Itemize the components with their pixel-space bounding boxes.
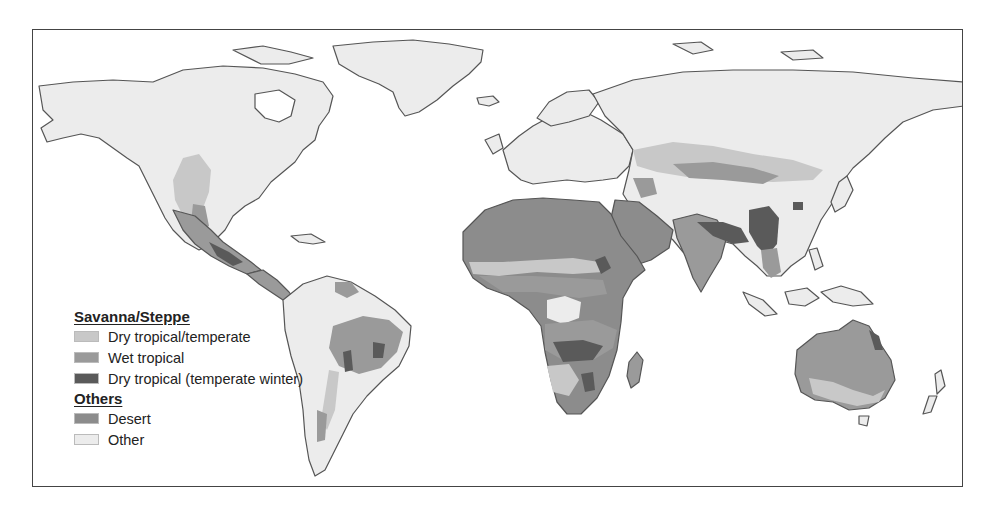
- legend-heading-others: Others: [74, 389, 303, 408]
- legend-item-dry-tropical-temperate: Dry tropical/temperate: [74, 326, 303, 347]
- swatch-wet-tropical: [74, 352, 99, 363]
- swatch-dry-tropical-temperate-winter: [74, 373, 99, 384]
- greenland: [333, 40, 483, 116]
- map-frame: Savanna/Steppe Dry tropical/temperate We…: [32, 29, 963, 487]
- swatch-desert: [74, 413, 99, 424]
- legend-label: Dry tropical (temperate winter): [108, 370, 303, 388]
- swatch-dry-tropical-temperate: [74, 331, 99, 342]
- map-legend: Savanna/Steppe Dry tropical/temperate We…: [74, 307, 303, 450]
- swatch-other: [74, 434, 99, 445]
- legend-label: Wet tropical: [108, 349, 184, 367]
- legend-item-wet-tropical: Wet tropical: [74, 347, 303, 368]
- legend-label: Other: [108, 431, 144, 449]
- legend-item-other: Other: [74, 429, 303, 450]
- legend-label: Desert: [108, 410, 151, 428]
- legend-heading-savanna: Savanna/Steppe: [74, 307, 303, 326]
- legend-label: Dry tropical/temperate: [108, 328, 251, 346]
- legend-item-desert: Desert: [74, 408, 303, 429]
- legend-item-dry-tropical-temperate-winter: Dry tropical (temperate winter): [74, 368, 303, 389]
- madagascar: [627, 352, 643, 388]
